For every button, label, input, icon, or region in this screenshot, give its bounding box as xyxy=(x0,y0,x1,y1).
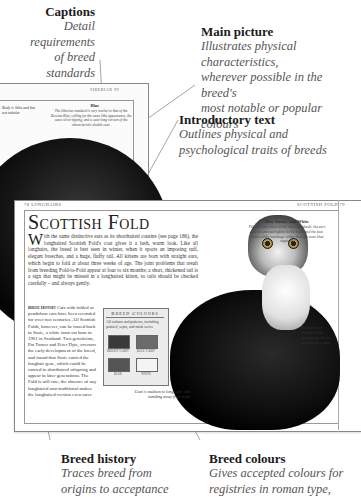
swatch-brown-tabby xyxy=(108,335,130,349)
callout-history-body-2: origins to acceptance xyxy=(61,482,191,497)
caption-head: Head is well-rounded with prominent chee… xyxy=(301,325,333,345)
swatch-label-white: WHITE xyxy=(135,372,157,376)
callout-breed-history: Breed history Traces breed from origins … xyxy=(61,451,191,497)
callout-intro-title: Introductory text xyxy=(179,112,359,127)
callout-main-picture-body-1: Illustrates physical characteristics, xyxy=(201,39,361,70)
callout-intro-body-2: psychological traits of breeds xyxy=(179,143,359,159)
running-head-right: SCOTTISH FOLD 79 xyxy=(297,202,345,207)
callout-main-picture-title: Main picture xyxy=(201,24,361,39)
swatch-blue-tabby xyxy=(136,335,158,349)
callout-history-title: Breed history xyxy=(61,451,191,466)
swatch-label-blue-tabby: BLUE TABBY xyxy=(135,349,157,353)
introductory-text: W ith the same distinctive ears as its s… xyxy=(28,233,198,287)
back-page-caption-blue: The Siberian standard is very similar to… xyxy=(50,109,132,127)
page-spine xyxy=(338,200,339,430)
breed-history: Breed History Cats with folded or pendul… xyxy=(28,305,98,398)
running-head-left: 78 LONGHAIRS xyxy=(24,202,62,207)
cat-chest xyxy=(262,265,310,330)
swatch-label-brown-tabby: BROWN TABBY xyxy=(107,349,129,353)
callout-history-body-1: Traces breed from xyxy=(61,466,191,482)
back-page-caption-blue-title: Blue xyxy=(55,103,135,108)
history-label: Breed History xyxy=(28,305,56,310)
callout-main-picture-body-2: wherever possible in the breed's xyxy=(201,70,361,101)
callout-introductory-text: Introductory text Outlines physical and … xyxy=(179,112,359,158)
breed-colours-description: All colours and patterns, including poin… xyxy=(106,320,164,329)
callout-captions-title: Captions xyxy=(5,4,95,19)
callout-colours-body-2: registries in roman type, xyxy=(209,482,359,497)
callout-captions-body-2: of breed standards xyxy=(5,50,95,81)
callout-colours-title: Breed colours xyxy=(209,451,359,466)
back-page-running-head: SIBERIAN 99 xyxy=(90,87,119,92)
callout-colours-body-1: Gives accepted colours for xyxy=(209,466,359,482)
caption-blue-smoke: This cat falls short of the show standar… xyxy=(246,225,328,244)
swatch-white xyxy=(136,358,158,372)
scottish-fold-cat-image xyxy=(170,290,340,430)
breed-title: Scottish Fold xyxy=(28,211,150,233)
back-page-caption-body: Body is lithe and but not tubular xyxy=(2,105,36,115)
callout-breed-colours: Breed colours Gives accepted colours for… xyxy=(209,451,359,497)
breed-colours-title: Breed Colours xyxy=(106,311,164,318)
caption-coat: Coat is medium to long, soft, and standi… xyxy=(130,389,190,399)
callout-captions-body-1: Detail requirements xyxy=(5,19,95,50)
caption-blue-smoke-title: Blue Smoke and White xyxy=(248,219,326,224)
intro-dropcap: W xyxy=(28,233,43,246)
swatch-label-blue: BLUE xyxy=(107,372,129,376)
intro-paragraph: ith the same distinctive ears as its sho… xyxy=(28,233,198,286)
callout-intro-body-1: Outlines physical and xyxy=(179,127,359,143)
swatch-blue xyxy=(108,358,130,372)
history-paragraph: Cats with folded or pendulous ears have … xyxy=(28,305,96,397)
